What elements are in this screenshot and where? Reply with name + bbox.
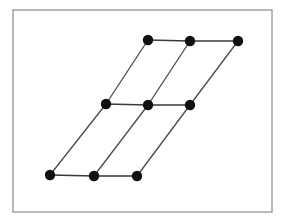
lattice-node-mid-right [185,100,195,110]
lattice-node-top-right [233,36,243,46]
canvas-background [0,0,285,222]
figure-root [0,0,285,222]
lattice-node-bottom-right [132,171,142,181]
lattice-node-mid-left [101,99,111,109]
lattice-diagram [0,0,285,222]
lattice-edge-horizontal [106,104,148,105]
lattice-edge-horizontal [148,40,190,41]
lattice-node-top-center [185,36,195,46]
lattice-node-bottom-center [89,171,99,181]
lattice-node-bottom-left [45,170,55,180]
lattice-node-mid-center [143,100,153,110]
lattice-edge-horizontal [50,175,94,176]
lattice-node-top-left [143,35,153,45]
